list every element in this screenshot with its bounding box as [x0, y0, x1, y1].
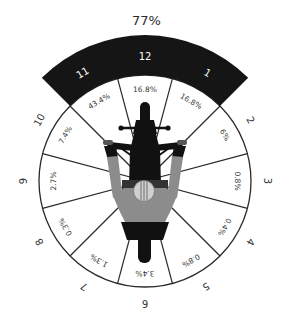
- sector-percentage-label: 2.7%: [49, 171, 58, 190]
- clock-hour-label: 12: [139, 51, 152, 62]
- clock-hour-label: 5: [200, 280, 211, 293]
- clock-hour-label: 6: [142, 298, 148, 309]
- clock-hour-label: 4: [244, 236, 257, 247]
- clock-hour-label: 8: [33, 236, 46, 247]
- clock-hour-label: 2: [244, 114, 257, 125]
- clock-hour-label: 10: [31, 112, 47, 129]
- clock-chart: 1216.8%116.8%26%30.8%40.4%50.8%63.4%71.3…: [0, 0, 285, 321]
- clock-hour-label: 3: [262, 178, 273, 184]
- sector-percentage-label: 3.4%: [135, 269, 154, 278]
- clock-hour-label: 7: [78, 280, 89, 293]
- sector-percentage-label: 0.8%: [233, 171, 242, 190]
- clock-hour-label: 9: [18, 178, 29, 184]
- sector-percentage-label: 16.8%: [133, 85, 157, 94]
